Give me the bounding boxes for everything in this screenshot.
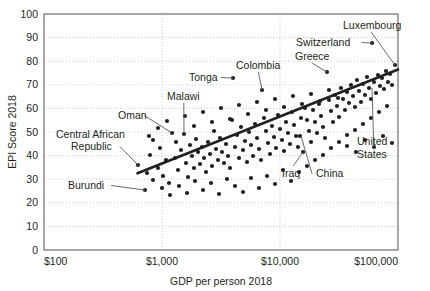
data-point [280,138,284,142]
data-point [147,134,151,138]
data-point [185,191,189,195]
y-axis-tick-labels: 0102030405060708090100 [20,8,38,256]
y-tick-label: 100 [20,8,38,20]
data-point [249,143,253,147]
epi-gdp-scatter-chart: 0102030405060708090100 $100$1,000$10,000… [0,0,430,291]
data-point [241,190,245,194]
data-point [321,153,325,157]
data-point [305,164,309,168]
data-point [224,142,228,146]
data-point [198,162,202,166]
annotation-label-oman: Oman [118,109,147,121]
leader-line-tonga [221,78,233,79]
data-point [355,78,359,82]
leader-line-oman [144,116,172,134]
data-point [204,170,208,174]
leader-line-luxembourg [371,32,395,65]
data-point [264,108,268,112]
data-point [165,119,169,123]
data-point [294,134,298,138]
data-point [315,131,319,135]
data-point [359,100,363,104]
x-axis-tick-labels: $100$1,000$10,000$100,000 [44,255,398,267]
y-tick-label: 50 [26,126,38,138]
data-point [273,182,277,186]
data-point [313,120,317,124]
leader-line-switzerland [362,43,372,44]
data-point [233,145,237,149]
data-point [331,120,335,124]
data-point [341,97,345,101]
data-point [156,126,160,130]
data-point [274,146,278,150]
data-point [321,125,325,129]
y-tick-label: 20 [26,196,38,208]
data-point [174,140,178,144]
x-tick-label: $1,000 [146,255,178,267]
x-tick-label: $100 [44,255,68,267]
leader-line-colombia [258,72,262,90]
data-point [186,175,190,179]
data-point [367,86,371,90]
data-point [237,103,241,107]
data-point [151,138,155,142]
data-point [241,148,245,152]
data-point [313,158,317,162]
data-point [289,179,293,183]
data-point [357,89,361,93]
data-point [353,128,357,132]
y-tick-label: 10 [26,220,38,232]
y-axis-title: EPI Score 2018 [6,95,18,169]
data-point [365,75,369,79]
data-point [329,109,333,113]
data-point [327,88,331,92]
data-point [339,86,343,90]
data-point [272,135,276,139]
x-axis-title: GDP per person 2018 [170,275,272,287]
data-point [209,181,213,185]
data-point [243,139,247,143]
data-point [319,114,323,118]
data-point [177,184,181,188]
annotation-label-states: States [357,148,387,160]
data-point [145,171,149,175]
data-point [158,146,162,150]
chart-canvas: 0102030405060708090100 $100$1,000$10,000… [0,0,430,291]
data-point [390,83,394,87]
data-point [226,154,230,158]
data-point [374,91,378,95]
data-point [296,145,300,149]
data-point [278,127,282,131]
data-point [343,108,347,112]
data-point [168,193,172,197]
data-point [284,120,288,124]
data-point [194,137,198,141]
data-point [309,92,313,96]
data-point [282,105,286,109]
data-point [216,158,220,162]
data-point [337,115,341,119]
data-point [255,100,259,104]
data-point [210,164,214,168]
data-point [286,131,290,135]
y-tick-label: 80 [26,55,38,67]
data-point [190,154,194,158]
leader-line-iraq [293,152,303,166]
data-point [347,101,351,105]
data-point [353,105,357,109]
data-point [239,125,243,129]
leader-line-burundi [111,186,145,191]
data-point [291,94,295,98]
data-point [237,156,241,160]
data-point [233,184,237,188]
annotation-label-colombia: Colombia [236,59,281,71]
data-point [262,116,266,120]
annotation-label-china: China [316,167,344,179]
y-tick-label: 70 [26,78,38,90]
y-tick-label: 30 [26,173,38,185]
data-point [270,124,274,128]
annotation-label-united: United [357,135,388,147]
y-tick-label: 40 [26,149,38,161]
data-point [337,140,341,144]
data-point [307,129,311,133]
